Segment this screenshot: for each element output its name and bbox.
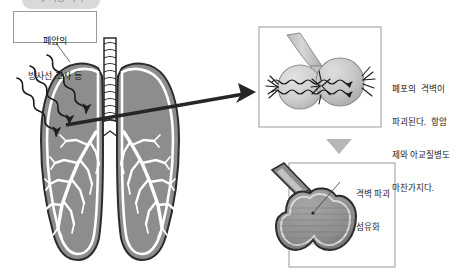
panel-alveoli-fibrosis-caption: 격벽 파괴 섬유화 — [356, 167, 418, 255]
caption-line-1: 폐포의 격벽이 — [392, 84, 460, 95]
alveolus-right — [316, 58, 364, 106]
left-lung — [117, 64, 179, 260]
diagram-root: 폐 기능 저하 폐암의 방사선 조사 등 폐포의 격벽이 파괴된다. 항암 제와… — [0, 0, 460, 277]
caption-line-2: 섬유화 — [356, 222, 418, 233]
title-tag-label: 폐 기능 저하 — [22, 0, 100, 4]
caption-line-3: 제와 아교질병도 — [392, 150, 460, 161]
callout-line-1: 폐암의 — [13, 36, 97, 48]
panel-alveoli-damage — [259, 27, 381, 127]
callout-label: 폐암의 방사선 조사 등 — [13, 13, 97, 105]
caption-line-1: 격벽 파괴 — [356, 189, 418, 200]
caption-line-2: 파괴된다. 항암 — [392, 117, 460, 128]
trachea-icon — [104, 38, 116, 124]
arrow-down — [326, 139, 352, 154]
callout-line-2: 방사선 조사 등 — [13, 71, 97, 83]
